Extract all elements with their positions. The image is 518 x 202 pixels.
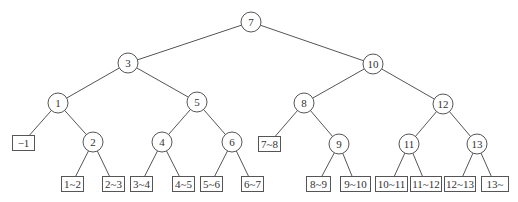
node-label: 3 (125, 57, 131, 69)
node-label: 8 (301, 97, 307, 109)
leaf-interval-box: 8~9 (307, 177, 331, 192)
node-label: 10 (368, 58, 380, 70)
node-label: 5 (194, 96, 200, 108)
tree-edge (313, 69, 365, 98)
tree-edge (137, 68, 189, 97)
tree-node: 7 (241, 12, 261, 32)
tree-edge (260, 25, 363, 60)
leaf-interval-box: 11~12 (411, 177, 442, 192)
tree-edge (137, 25, 241, 60)
leaf-interval-box: 2~3 (103, 177, 125, 192)
node-label: 2 (90, 136, 96, 148)
tree-edge (65, 110, 87, 134)
tree-edge (463, 153, 473, 176)
tree-edge (215, 151, 228, 176)
tree-edge (394, 153, 404, 176)
tree-node: 10 (363, 54, 383, 74)
tree-edge (382, 69, 435, 99)
leaf-label: 10~11 (378, 178, 406, 190)
tree-edge (167, 151, 180, 176)
tree-edge (67, 68, 120, 98)
tree-edge (145, 151, 158, 176)
leaf-label: 12~13 (446, 178, 474, 190)
tree-node: 1 (48, 93, 68, 113)
node-label: 4 (159, 136, 165, 148)
leaf-label: 1~2 (64, 178, 81, 190)
node-label: 13 (472, 138, 484, 150)
tree-node: 4 (152, 132, 172, 152)
node-label: 9 (336, 138, 342, 150)
leaf-label: 9~10 (344, 178, 367, 190)
leaf-interval-box: 6~7 (242, 177, 264, 192)
leaf-label: 2~3 (105, 178, 122, 190)
node-label: 1 (55, 97, 61, 109)
tree-edge (169, 110, 191, 135)
tree-edge (30, 110, 52, 135)
tree-edge (275, 111, 297, 136)
node-label: 12 (438, 98, 449, 110)
tree-node: 12 (433, 94, 453, 114)
tree-edge (449, 112, 470, 137)
tree-edge (236, 151, 248, 176)
tree-edge (413, 153, 423, 176)
internal-nodes: 73101581224691113 (48, 12, 487, 154)
leaf-label: −1 (18, 137, 30, 149)
node-label: 6 (229, 136, 235, 148)
leaf-label: 13~ (487, 178, 504, 190)
tree-edge (76, 151, 89, 176)
leaf-interval-box: 13~ (482, 177, 509, 192)
leaf-interval-box: 10~11 (376, 177, 408, 192)
tree-node: 3 (118, 53, 138, 73)
tree-edge (481, 153, 491, 176)
leaf-label: 3~4 (133, 178, 150, 190)
tree-edge (343, 153, 352, 176)
tree-edge (310, 111, 332, 137)
tree-edge (204, 110, 226, 135)
node-label: 11 (404, 138, 415, 150)
leaf-interval-box: 3~4 (131, 177, 153, 192)
tree-node: 8 (294, 93, 314, 113)
tree-edge (415, 112, 436, 137)
tree-node: 9 (329, 134, 349, 154)
tree-node: 13 (467, 134, 487, 154)
binary-search-tree-diagram: −11~22~33~44~55~66~77~88~99~1010~1111~12… (0, 0, 518, 202)
leaf-interval-box: 1~2 (62, 177, 84, 192)
tree-node: 5 (187, 92, 207, 112)
leaf-interval-box: −1 (13, 136, 35, 151)
leaf-label: 4~5 (175, 178, 192, 190)
leaf-interval-box: 9~10 (341, 177, 371, 192)
leaf-interval-box: 12~13 (445, 177, 476, 192)
leaf-label: 7~8 (261, 138, 278, 150)
leaf-interval-box: 7~8 (259, 137, 281, 152)
node-label: 7 (248, 16, 254, 28)
leaf-interval-box: 4~5 (173, 177, 195, 192)
tree-node: 11 (399, 134, 419, 154)
tree-edge (97, 151, 109, 176)
tree-edge (322, 153, 334, 176)
leaf-label: 5~6 (203, 178, 220, 190)
leaf-label: 11~12 (412, 178, 440, 190)
leaf-interval-box: 5~6 (201, 177, 223, 192)
leaf-label: 6~7 (244, 178, 261, 190)
tree-node: 2 (83, 132, 103, 152)
leaf-label: 8~9 (310, 178, 327, 190)
tree-node: 6 (222, 132, 242, 152)
tree-edges (30, 25, 492, 176)
